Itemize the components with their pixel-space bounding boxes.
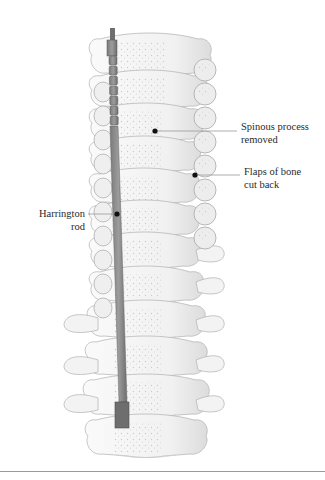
bone-flap-texture: [196, 230, 210, 240]
bone-flap: [94, 154, 112, 174]
label-line: cut back: [244, 178, 301, 191]
rod-ratchet-segment: [110, 106, 118, 115]
rod-ratchet-segment: [110, 116, 118, 125]
leader-spinous-process-dot: [152, 128, 157, 133]
spine-illustration: Spinous process removed Flaps of bone cu…: [0, 0, 325, 480]
bone-flap: [94, 226, 112, 246]
transverse-process: [196, 278, 224, 294]
bone-graft-texture: [116, 78, 164, 104]
label-harrington-rod: Harrington rod: [33, 207, 85, 233]
bone-flap: [94, 274, 112, 294]
bone-flap: [94, 298, 112, 318]
transverse-process: [196, 356, 224, 372]
rod-ratchet-segment: [109, 76, 117, 85]
rod-ratchet-segment: [109, 66, 117, 75]
transverse-process: [196, 316, 224, 332]
bone-flap-texture: [196, 182, 210, 192]
transverse-process: [64, 357, 98, 375]
bone-flap-texture: [196, 206, 210, 216]
rod-ratchet-segment: [110, 86, 118, 95]
bone-flap: [94, 130, 112, 150]
label-line: Harrington: [33, 207, 85, 220]
spine-diagram: [0, 0, 325, 480]
bone-flap: [94, 250, 112, 270]
transverse-process: [196, 396, 224, 412]
label-line: removed: [241, 133, 309, 146]
bottom-rule: [0, 471, 325, 472]
rod-lower-hook: [115, 402, 129, 428]
bone-flap-texture: [196, 62, 210, 72]
bone-flap-texture: [196, 158, 210, 168]
bone-flap: [94, 82, 112, 102]
label-spinous-process: Spinous process removed: [241, 120, 309, 146]
bone-flap-texture: [196, 110, 210, 120]
rod-upper-hook: [107, 40, 117, 56]
bone-flap: [94, 202, 112, 222]
bone-graft-texture: [113, 144, 161, 168]
bone-flap-texture: [196, 86, 210, 96]
bone-graft-texture: [118, 41, 166, 71]
label-line: rod: [33, 220, 85, 233]
rod-ratchet-segment: [110, 96, 118, 105]
leader-flaps-of-bone-dot: [192, 172, 197, 177]
rod-ratchet-segment: [109, 56, 117, 65]
bone-flap-texture: [196, 134, 210, 144]
label-line: Flaps of bone: [244, 165, 301, 178]
rod-tip: [110, 28, 115, 40]
label-flaps-of-bone: Flaps of bone cut back: [244, 165, 301, 191]
transverse-process: [64, 315, 98, 333]
label-line: Spinous process: [241, 120, 309, 133]
leader-harrington-rod-dot: [114, 211, 119, 216]
transverse-process: [64, 395, 98, 413]
bone-flap: [94, 106, 112, 126]
bone-flap: [94, 178, 112, 198]
